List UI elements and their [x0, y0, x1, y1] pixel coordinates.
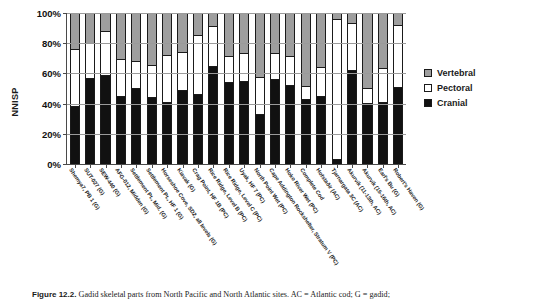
- stacked-bar[interactable]: [177, 13, 187, 164]
- bar-segment-pectoral: [101, 31, 109, 76]
- y-axis-tick-mark: [63, 104, 67, 105]
- bar-segment-vertebral: [240, 14, 248, 53]
- legend-swatch-cranial: [424, 99, 432, 107]
- stacked-bar[interactable]: [147, 13, 157, 164]
- bar-segment-cranial: [317, 97, 325, 165]
- y-axis-tick-label: 0%: [21, 159, 61, 170]
- stacked-bar[interactable]: [255, 13, 265, 164]
- bar-segment-vertebral: [286, 14, 294, 56]
- gridline: [67, 13, 406, 14]
- bar-slot: [329, 13, 344, 164]
- bar-slot: [113, 13, 128, 164]
- bar-segment-pectoral: [271, 53, 279, 80]
- stacked-bar[interactable]: [100, 13, 110, 164]
- bar-segment-pectoral: [286, 56, 294, 86]
- y-axis-tick-mark: [63, 73, 67, 74]
- stacked-bar[interactable]: [116, 13, 126, 164]
- bar-segment-pectoral: [302, 86, 310, 100]
- stacked-bar[interactable]: [393, 13, 403, 164]
- bar-segment-vertebral: [363, 14, 371, 88]
- bar-segment-pectoral: [317, 67, 325, 97]
- bar-segment-pectoral: [240, 53, 248, 82]
- bar-segment-vertebral: [225, 14, 233, 56]
- bar-segment-pectoral: [394, 25, 402, 88]
- stacked-bar[interactable]: [378, 13, 388, 164]
- stacked-bar[interactable]: [270, 13, 280, 164]
- bar-segment-pectoral: [178, 52, 186, 91]
- bar-segment-cranial: [194, 95, 202, 164]
- bar-segment-pectoral: [163, 55, 171, 103]
- gridline: [67, 73, 406, 74]
- bar-slot: [159, 13, 174, 164]
- bar-slot: [283, 13, 298, 164]
- legend-item-vertebral: Vertebral: [424, 68, 536, 78]
- bar-segment-cranial: [101, 76, 109, 165]
- bar-segment-vertebral: [302, 14, 310, 86]
- stacked-bar[interactable]: [162, 13, 172, 164]
- stacked-bar[interactable]: [85, 13, 95, 164]
- legend-label-pectoral: Pectoral: [437, 83, 473, 93]
- stacked-bar[interactable]: [208, 13, 218, 164]
- y-axis-title-text: NNISP: [9, 87, 19, 116]
- stacked-bar[interactable]: [347, 13, 357, 164]
- stacked-bar[interactable]: [193, 13, 203, 164]
- bar-segment-cranial: [256, 115, 264, 165]
- bar-segment-vertebral: [317, 14, 325, 67]
- gridline: [67, 104, 406, 105]
- y-axis-tick-mark: [63, 43, 67, 44]
- stacked-bar[interactable]: [301, 13, 311, 164]
- figure-caption: Figure 12.2. Gadid skeletal parts from N…: [32, 290, 532, 299]
- bar-segment-cranial: [225, 83, 233, 164]
- bar-slot: [314, 13, 329, 164]
- stacked-bar[interactable]: [239, 13, 249, 164]
- gridline: [67, 43, 406, 44]
- bar-segment-vertebral: [379, 14, 387, 68]
- stacked-bar[interactable]: [70, 13, 80, 164]
- legend-swatch-pectoral: [424, 84, 432, 92]
- bar-slot: [252, 13, 267, 164]
- bar-slot: [129, 13, 144, 164]
- legend-item-cranial: Cranial: [424, 98, 536, 108]
- stacked-bar[interactable]: [224, 13, 234, 164]
- bar-segment-pectoral: [209, 26, 217, 67]
- bar-segment-pectoral: [363, 88, 371, 105]
- bar-segment-vertebral: [163, 14, 171, 55]
- bar-segment-vertebral: [348, 14, 356, 23]
- bar-segment-pectoral: [71, 49, 79, 108]
- y-axis-tick-label: 80%: [21, 38, 61, 49]
- bar-slot: [344, 13, 359, 164]
- bar-slot: [391, 13, 406, 164]
- bar-slot: [175, 13, 190, 164]
- bar-segment-pectoral: [333, 19, 341, 160]
- bar-segment-vertebral: [271, 14, 279, 53]
- bar-segment-vertebral: [117, 14, 125, 59]
- bar-slot: [267, 13, 282, 164]
- bar-slot: [360, 13, 375, 164]
- stacked-bar[interactable]: [285, 13, 295, 164]
- bar-segment-pectoral: [132, 61, 140, 90]
- stacked-bar[interactable]: [332, 13, 342, 164]
- legend-swatch-vertebral: [424, 69, 432, 77]
- x-axis-labels: Shemya7, PB 1 (G)SUT-027 (G)SEW-440 (G)A…: [66, 167, 406, 263]
- legend: Vertebral Pectoral Cranial: [424, 68, 536, 113]
- y-axis-tick-mark: [63, 13, 67, 14]
- stacked-bar[interactable]: [362, 13, 372, 164]
- bar-segment-cranial: [348, 71, 356, 164]
- legend-label-cranial: Cranial: [437, 98, 468, 108]
- bar-segment-cranial: [148, 98, 156, 164]
- legend-label-vertebral: Vertebral: [437, 68, 476, 78]
- bar-segment-pectoral: [256, 77, 264, 115]
- bar-segment-vertebral: [148, 14, 156, 65]
- bar-segment-cranial: [71, 107, 79, 164]
- bar-segment-vertebral: [132, 14, 140, 61]
- y-axis-tick-label: 40%: [21, 98, 61, 109]
- bar-segment-vertebral: [86, 14, 94, 43]
- stacked-bar[interactable]: [131, 13, 141, 164]
- legend-item-pectoral: Pectoral: [424, 83, 536, 93]
- bar-slot: [82, 13, 97, 164]
- bar-slot: [190, 13, 205, 164]
- figure-caption-text: Gadid skeletal parts from North Pacific …: [76, 290, 389, 299]
- bar-segment-vertebral: [209, 14, 217, 26]
- stacked-bar[interactable]: [316, 13, 326, 164]
- y-axis-tick-label: 60%: [21, 68, 61, 79]
